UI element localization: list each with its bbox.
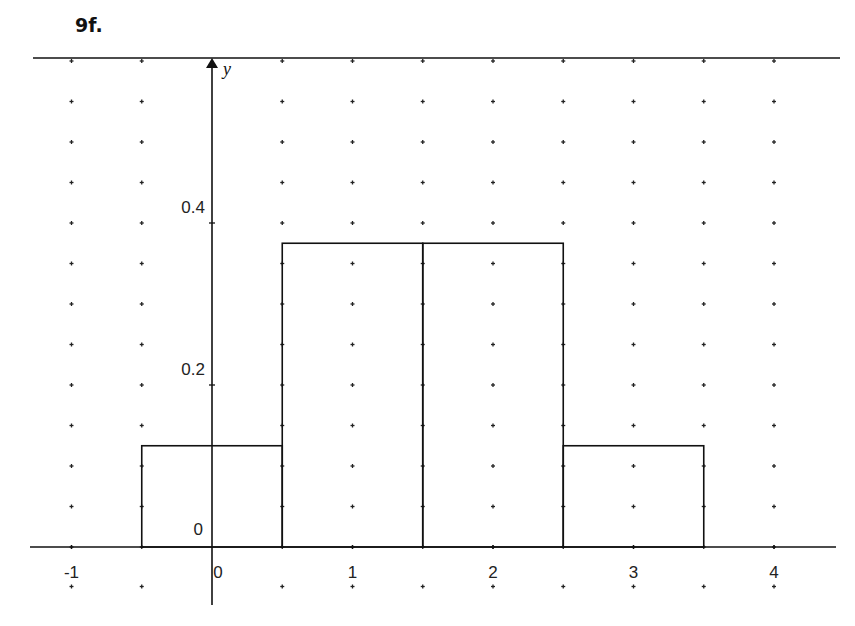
grid-dot bbox=[772, 302, 776, 306]
grid-dot bbox=[140, 262, 144, 266]
grid-dot bbox=[70, 343, 74, 347]
grid-dot bbox=[351, 181, 355, 185]
grid-dot bbox=[772, 585, 776, 589]
grid-dot bbox=[140, 585, 144, 589]
grid-dot bbox=[351, 59, 355, 63]
grid-dot bbox=[140, 424, 144, 428]
grid-dot bbox=[702, 585, 706, 589]
grid-dot bbox=[702, 302, 706, 306]
grid-dot bbox=[772, 262, 776, 266]
grid-dot bbox=[772, 59, 776, 63]
x-tick-label: 0 bbox=[213, 563, 222, 582]
grid-dot bbox=[491, 505, 495, 509]
y-axis-label: y bbox=[221, 59, 231, 79]
grid-dot bbox=[140, 302, 144, 306]
y-axis-arrow-icon bbox=[206, 58, 218, 68]
grid-dot bbox=[70, 424, 74, 428]
grid-dot bbox=[421, 100, 425, 104]
grid-dot bbox=[70, 464, 74, 468]
grid-dot bbox=[140, 59, 144, 63]
grid-dot bbox=[632, 59, 636, 63]
x-tick-labels: -101234 bbox=[64, 545, 779, 582]
histogram-bar bbox=[563, 446, 704, 547]
grid-dot bbox=[772, 424, 776, 428]
grid-dot bbox=[772, 505, 776, 509]
grid-dot bbox=[632, 140, 636, 144]
grid-dot bbox=[491, 100, 495, 104]
grid-dot bbox=[702, 383, 706, 387]
y-tick-label: 0.2 bbox=[181, 360, 205, 379]
grid-dot bbox=[632, 585, 636, 589]
grid-dot bbox=[632, 424, 636, 428]
grid-dot bbox=[772, 181, 776, 185]
grid-dot bbox=[632, 100, 636, 104]
grid-dot bbox=[351, 505, 355, 509]
grid-dot bbox=[280, 181, 284, 185]
grid-dot bbox=[140, 221, 144, 225]
grid-dot bbox=[632, 302, 636, 306]
grid-dot bbox=[280, 585, 284, 589]
grid-dot bbox=[702, 221, 706, 225]
histogram-bar bbox=[282, 243, 423, 547]
grid-dot bbox=[772, 383, 776, 387]
grid-dot bbox=[351, 343, 355, 347]
grid-dot bbox=[561, 585, 565, 589]
grid-dot bbox=[772, 100, 776, 104]
grid-dot bbox=[70, 100, 74, 104]
grid-dot bbox=[140, 383, 144, 387]
grid-dot bbox=[140, 343, 144, 347]
grid-dot bbox=[561, 140, 565, 144]
histogram-chart: y -101234 00.20.4 bbox=[0, 0, 855, 626]
histogram-bar bbox=[423, 243, 564, 547]
grid-dot bbox=[421, 140, 425, 144]
x-tick-label: -1 bbox=[64, 563, 79, 582]
grid-dot bbox=[70, 585, 74, 589]
grid-dot bbox=[351, 262, 355, 266]
x-tick-label: 4 bbox=[769, 563, 778, 582]
grid-dot bbox=[70, 505, 74, 509]
grid-dot bbox=[70, 59, 74, 63]
grid-dot bbox=[351, 221, 355, 225]
grid-dot bbox=[561, 59, 565, 63]
grid-dot bbox=[70, 140, 74, 144]
grid-dot bbox=[632, 383, 636, 387]
grid-dot bbox=[702, 140, 706, 144]
grid-dot bbox=[772, 464, 776, 468]
grid-dot bbox=[632, 505, 636, 509]
grid-dot bbox=[561, 221, 565, 225]
histogram-bars bbox=[142, 243, 704, 547]
grid-dot bbox=[351, 464, 355, 468]
grid-dot bbox=[70, 383, 74, 387]
grid-dot bbox=[70, 262, 74, 266]
grid-dot bbox=[140, 181, 144, 185]
grid-dot bbox=[561, 100, 565, 104]
x-tick-label: 3 bbox=[629, 563, 638, 582]
grid-dot bbox=[491, 424, 495, 428]
x-tick-label: 2 bbox=[488, 563, 497, 582]
grid-dot bbox=[772, 221, 776, 225]
grid-dot bbox=[491, 140, 495, 144]
grid-dot bbox=[421, 181, 425, 185]
y-tick-label: 0.4 bbox=[181, 198, 205, 217]
grid-dot bbox=[351, 140, 355, 144]
grid-dot bbox=[702, 343, 706, 347]
grid-dot bbox=[351, 302, 355, 306]
grid-dot bbox=[491, 383, 495, 387]
grid-dot bbox=[491, 343, 495, 347]
grid-dot bbox=[70, 181, 74, 185]
grid-dot bbox=[351, 585, 355, 589]
grid-dot bbox=[632, 464, 636, 468]
grid-dot bbox=[491, 262, 495, 266]
grid-dot bbox=[772, 343, 776, 347]
grid-dot bbox=[561, 181, 565, 185]
grid-dot bbox=[421, 59, 425, 63]
grid-dot bbox=[702, 59, 706, 63]
grid-dot bbox=[702, 262, 706, 266]
grid-dot bbox=[280, 140, 284, 144]
grid-dot bbox=[140, 100, 144, 104]
grid-dot bbox=[491, 302, 495, 306]
grid-dot bbox=[632, 343, 636, 347]
grid-dot bbox=[280, 221, 284, 225]
grid-dot bbox=[421, 221, 425, 225]
grid-dot bbox=[491, 464, 495, 468]
